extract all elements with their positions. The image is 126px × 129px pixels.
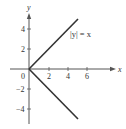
y-tick-label-4: 4: [21, 25, 25, 34]
curve-lower-branch: [29, 69, 78, 119]
curve-label: |y| = x: [70, 29, 92, 39]
y-axis-arrow-icon: [27, 13, 31, 19]
y-tick-label-neg2: −2: [16, 85, 25, 94]
y-axis-label: y: [26, 3, 31, 12]
plot-area: x y 2 4 6 0 4 2 −2 −4 |y| = x: [0, 0, 126, 129]
x-tick-label-6: 6: [85, 72, 89, 81]
x-tick-label-2: 2: [47, 72, 51, 81]
x-axis-arrow-icon: [110, 67, 116, 71]
x-axis-label: x: [117, 65, 122, 74]
x-tick-label-4: 4: [66, 72, 70, 81]
y-tick-label-neg4: −4: [16, 105, 25, 114]
origin-label: 0: [21, 72, 25, 81]
y-tick-label-2: 2: [21, 45, 25, 54]
curve-upper-branch: [29, 19, 78, 69]
